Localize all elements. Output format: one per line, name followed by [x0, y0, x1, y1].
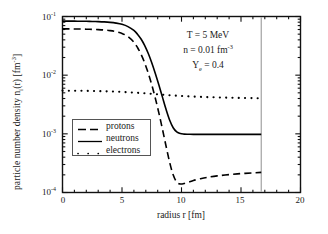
axes-frame — [63, 17, 301, 193]
plot-canvas — [0, 0, 328, 234]
figure-root: particle number density ni(r) [fm-3] rad… — [0, 0, 328, 234]
curve-neutrons — [63, 21, 262, 134]
data-curves — [63, 21, 262, 184]
curve-protons — [63, 29, 262, 184]
axis-ticks — [63, 17, 301, 193]
